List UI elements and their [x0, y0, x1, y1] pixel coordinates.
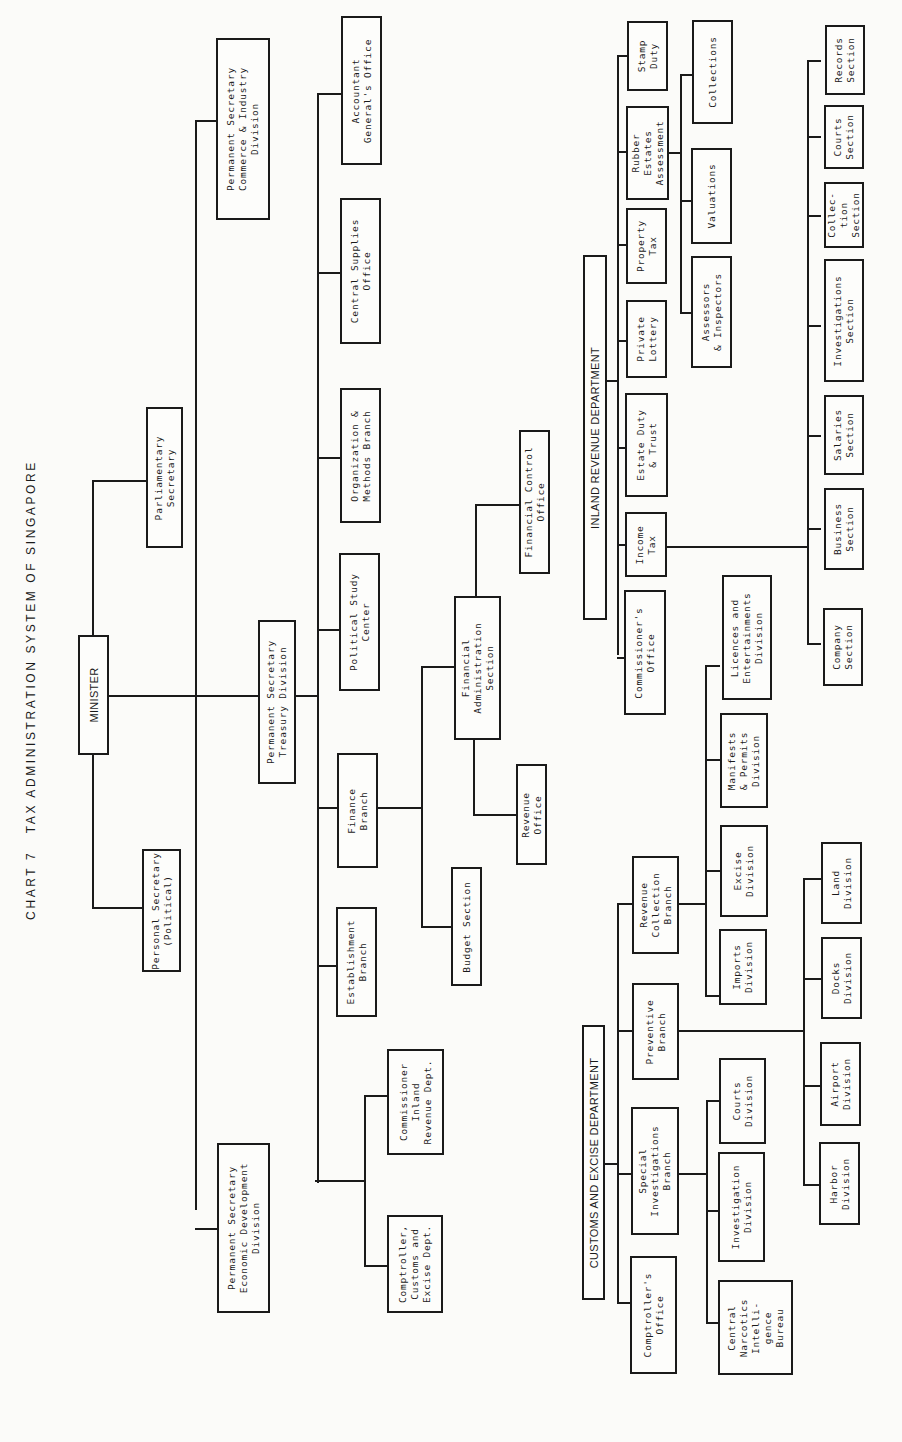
node-docks-division[interactable]: Docks Division [821, 937, 862, 1019]
connector [803, 878, 805, 1184]
node-imports-division[interactable]: Imports Division [719, 929, 767, 1005]
node-parliamentary-secretary[interactable]: Parliamentary Secretary [146, 407, 183, 548]
connector [607, 380, 617, 382]
node-excise-division[interactable]: Excise Division [720, 825, 768, 917]
node-commissioners-office[interactable]: Commissioner's Office [624, 590, 666, 715]
connector [317, 272, 340, 274]
node-collection-section[interactable]: Collec- tion Section [824, 182, 864, 248]
connector [679, 1173, 706, 1175]
node-comptrollers-office[interactable]: Comptroller's Office [630, 1256, 677, 1374]
node-rubber-estates[interactable]: Rubber Estates Assessment [626, 106, 669, 200]
node-salaries-section[interactable]: Salaries Section [824, 395, 864, 475]
node-stamp-duty[interactable]: Stamp Duty [627, 21, 668, 91]
node-company-section[interactable]: Company Section [823, 608, 863, 686]
connector [679, 1030, 803, 1032]
node-narcotics-bureau[interactable]: Central Narcotics Intelli- gence Bureau [718, 1280, 793, 1375]
node-private-lottery[interactable]: Private Lottery [626, 300, 667, 378]
connector [364, 1095, 387, 1097]
customs-header[interactable]: CUSTOMS AND EXCISE DEPARTMENT [582, 1025, 605, 1300]
connector [109, 695, 258, 697]
connector [475, 504, 519, 506]
connector [807, 325, 821, 327]
connector [296, 695, 317, 697]
node-special-investigations[interactable]: Special Investigations Branch [631, 1107, 679, 1235]
node-commissioner-ird[interactable]: Commissioner Inland Revenue Dept. [387, 1049, 444, 1155]
connector [421, 926, 451, 928]
connector [617, 1030, 632, 1032]
node-personal-secretary[interactable]: Personal Secretary (Political) [142, 849, 181, 972]
connector [195, 120, 197, 1210]
node-valuations[interactable]: Valuations [691, 148, 732, 244]
connector [317, 457, 340, 459]
connector [680, 74, 682, 312]
connector [475, 504, 477, 596]
node-assessors[interactable]: Assessors & Inspectors [691, 256, 732, 368]
node-investigations-section[interactable]: Investigations Section [824, 259, 864, 382]
node-business-section[interactable]: Business Section [824, 488, 864, 570]
connector [803, 878, 821, 880]
node-financial-admin[interactable]: Financial Administration Section [454, 596, 501, 740]
node-finance-branch[interactable]: Finance Branch [337, 753, 378, 868]
connector [92, 755, 94, 907]
connector [92, 480, 94, 635]
ird-header[interactable]: INLAND REVENUE DEPARTMENT [583, 255, 607, 620]
connector [807, 215, 821, 217]
connector [92, 907, 142, 909]
connector [807, 60, 809, 645]
node-investigation-division[interactable]: Investigation Division [718, 1152, 765, 1262]
connector [421, 666, 454, 668]
connector [421, 666, 423, 926]
connector [803, 978, 821, 980]
node-revenue-office[interactable]: Revenue Office [516, 764, 547, 865]
connector [807, 643, 821, 645]
node-ps-commerce-industry[interactable]: Permanent Secretary Commerce & Industry … [216, 38, 270, 220]
node-harbor-division[interactable]: Harbor Division [819, 1142, 860, 1225]
node-licences-division[interactable]: Licences and Entertainments Division [722, 575, 772, 700]
node-records-section[interactable]: Records Section [825, 25, 865, 95]
node-preventive-branch[interactable]: Preventive Branch [632, 983, 679, 1080]
node-property-tax[interactable]: Property Tax [626, 208, 667, 284]
connector [705, 665, 707, 995]
connector [378, 807, 421, 809]
connector [617, 903, 619, 1303]
connector [617, 55, 627, 57]
node-land-division[interactable]: Land Division [821, 842, 862, 924]
connector [195, 120, 216, 122]
connector [680, 74, 692, 76]
node-manifests-division[interactable]: Manifests & Permits Division [720, 713, 768, 808]
node-establishment-branch[interactable]: Establishment Branch [336, 907, 377, 1017]
node-accountant-general[interactable]: Accountant General's Office [341, 16, 382, 165]
node-political-study[interactable]: Political Study Center [339, 553, 380, 691]
node-ps-treasury[interactable]: Permanent Secretary Treasury Division [258, 620, 296, 784]
connector [706, 1100, 720, 1102]
node-comptroller-customs[interactable]: Comptroller, Customs and Excise Dept. [387, 1215, 443, 1313]
connector [807, 136, 821, 138]
node-collections[interactable]: Collections [692, 20, 733, 124]
connector [605, 1163, 617, 1165]
connector [617, 55, 619, 655]
connector [705, 995, 720, 997]
connector [317, 965, 336, 967]
node-org-methods[interactable]: Organization & Methods Branch [340, 388, 381, 523]
connector [705, 665, 720, 667]
node-revenue-collection-branch[interactable]: Revenue Collection Branch [632, 856, 679, 954]
connector [317, 93, 341, 95]
node-airport-division[interactable]: Airport Division [820, 1042, 861, 1126]
chart-title: CHART 7 TAX ADMINISTRATION SYSTEM OF SIN… [16, 465, 46, 915]
connector [92, 480, 146, 482]
connector [807, 60, 821, 62]
connector [317, 93, 319, 1183]
node-ps-economic-development[interactable]: Permanent Secretary Economic Development… [217, 1143, 270, 1313]
node-courts-division[interactable]: Courts Division [719, 1058, 766, 1144]
node-income-tax[interactable]: Income Tax [625, 512, 667, 577]
node-estate-duty[interactable]: Estate Duty & Trust [625, 393, 668, 497]
connector [679, 903, 705, 905]
connector [364, 1095, 366, 1265]
node-courts-section[interactable]: Courts Section [824, 105, 864, 169]
node-minister[interactable]: MINISTER [78, 635, 109, 755]
node-budget-section[interactable]: Budget Section [451, 867, 482, 986]
connector [473, 740, 475, 814]
node-central-supplies[interactable]: Central Supplies Office [340, 198, 381, 344]
connector [317, 629, 339, 631]
node-financial-control[interactable]: Financial Control Office [519, 430, 550, 574]
